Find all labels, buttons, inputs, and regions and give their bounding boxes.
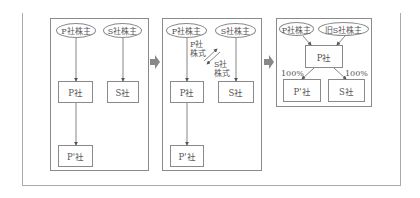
step-arrow-icon — [150, 55, 160, 69]
step-arrow-icon — [264, 55, 274, 69]
s-shares-label-line1: S社 — [214, 60, 230, 69]
former-s-shareholders-oval: 旧S社株主 — [318, 22, 369, 36]
ownership-label-right: 100% — [345, 69, 368, 78]
p-company-node: P社 — [170, 81, 204, 103]
p-company-node: P社 — [58, 81, 93, 103]
p-shares-label-line2: 株式 — [190, 49, 206, 58]
p-shares-label-line1: P社 — [190, 40, 206, 49]
s-company-node: S社 — [328, 79, 365, 102]
p-shareholders-oval: P社株主 — [166, 23, 207, 38]
p-company-node: P社 — [305, 45, 343, 68]
ownership-label-left: 100% — [281, 69, 304, 78]
p-shares-label: P社 株式 — [190, 40, 206, 58]
p-shareholders-oval: P社株主 — [56, 23, 96, 38]
p-prime-company-node: P'社 — [283, 79, 321, 102]
s-shareholders-oval: S社株主 — [103, 23, 142, 38]
s-shareholders-oval: S社株主 — [215, 23, 256, 38]
p-shareholders-oval: P社株主 — [279, 22, 314, 36]
s-shares-label: S社 株式 — [214, 60, 230, 78]
p-prime-company-node: P'社 — [58, 145, 93, 167]
s-shares-label-line2: 株式 — [214, 69, 230, 78]
s-company-node: S社 — [218, 81, 254, 103]
s-company-node: S社 — [107, 81, 139, 103]
p-prime-company-node: P'社 — [170, 145, 204, 167]
